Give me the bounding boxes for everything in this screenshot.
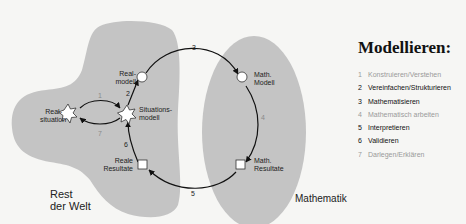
edge-7-number: 7 bbox=[98, 130, 102, 137]
realmodell-label: Real- modell bbox=[112, 70, 136, 86]
math-modell-circle-icon bbox=[237, 72, 247, 82]
legend-step-7: 7Darlegen/Erklären bbox=[358, 148, 451, 161]
math-resultate-label: Math. Resultate bbox=[254, 157, 284, 173]
edge-2-number: 2 bbox=[126, 90, 130, 97]
legend-step-2: 2Vereinfachen/Strukturieren bbox=[358, 81, 451, 94]
situationsmodell-label: Situations- modell bbox=[139, 106, 172, 122]
legend-step-3: 3Mathematisieren bbox=[358, 95, 451, 108]
legend-step-6: 6Validieren bbox=[358, 134, 451, 147]
realsituation-label: Real- situation bbox=[40, 108, 62, 124]
edge-6-number: 6 bbox=[124, 141, 128, 148]
edge-1-number: 1 bbox=[98, 92, 102, 99]
realmodell-circle-icon bbox=[137, 72, 147, 82]
edge-5-number: 5 bbox=[191, 190, 195, 197]
legend-step-1: 1Konstruieren/Verstehen bbox=[358, 68, 451, 81]
mathematik-label: Mathematik bbox=[295, 193, 347, 205]
legend-steps-list: 1Konstruieren/Verstehen 2Vereinfachen/St… bbox=[358, 68, 451, 161]
legend-step-5: 5Interpretieren bbox=[358, 121, 451, 134]
mathematik-region bbox=[202, 36, 306, 224]
rest-der-welt-label: Rest der Welt bbox=[50, 188, 91, 212]
math-modell-label: Math. Modell bbox=[254, 71, 275, 87]
legend-title: Modellieren: bbox=[358, 38, 451, 58]
reale-resultate-square-icon bbox=[138, 160, 147, 169]
legend-step-4: 4Mathematisch arbeiten bbox=[358, 108, 451, 121]
edge-3-number: 3 bbox=[192, 44, 196, 51]
edge-4-number: 4 bbox=[261, 114, 265, 121]
reale-resultate-label: Reale Resultate bbox=[100, 157, 133, 173]
math-resultate-square-icon bbox=[236, 160, 245, 169]
